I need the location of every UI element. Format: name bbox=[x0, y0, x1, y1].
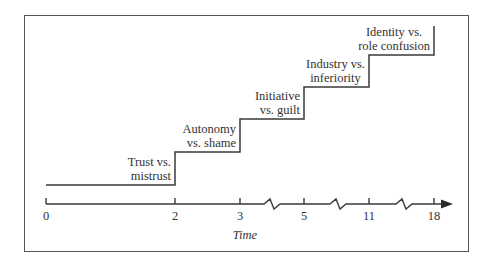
tick-label-2: 2 bbox=[172, 209, 178, 224]
tick-label-18: 18 bbox=[428, 209, 441, 224]
stage-label-line2: role confusion bbox=[358, 39, 430, 53]
axis-arrow-icon bbox=[441, 200, 453, 209]
stage-label-trust: Trust vs. mistrust bbox=[128, 155, 171, 183]
stage-label-line2: vs. shame bbox=[183, 136, 236, 150]
tick-label-11: 11 bbox=[363, 209, 375, 224]
stage-label-industry: Industry vs. inferiority bbox=[306, 57, 365, 85]
stage-label-line2: vs. guilt bbox=[255, 103, 300, 117]
stage-label-line1: Autonomy bbox=[183, 122, 236, 136]
stage-label-autonomy: Autonomy vs. shame bbox=[183, 122, 236, 150]
stage-label-identity: Identity vs. role confusion bbox=[358, 25, 430, 53]
tick-label-3: 3 bbox=[237, 209, 243, 224]
axis-title: Time bbox=[233, 228, 257, 243]
tick-label-0: 0 bbox=[43, 209, 49, 224]
tick-label-5: 5 bbox=[301, 209, 307, 224]
stage-label-line1: Trust vs. bbox=[128, 155, 171, 169]
stage-label-initiative: Initiative vs. guilt bbox=[255, 89, 300, 117]
stage-label-line2: mistrust bbox=[128, 169, 171, 183]
stage-label-line1: Identity vs. bbox=[358, 25, 430, 39]
time-axis bbox=[46, 198, 444, 209]
stage-label-line1: Industry vs. bbox=[306, 57, 365, 71]
stage-label-line1: Initiative bbox=[255, 89, 300, 103]
stage-label-line2: inferiority bbox=[306, 71, 365, 85]
